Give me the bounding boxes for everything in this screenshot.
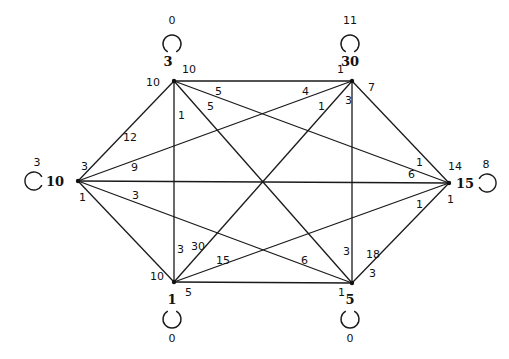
edge-weight-label: 30 (191, 240, 205, 253)
edge-weight-label: 3 (343, 245, 350, 258)
self-loop-weight-label: 0 (169, 14, 176, 27)
node-name-label: 10 (46, 174, 64, 189)
edge-weight-label: 1 (337, 63, 344, 76)
edge-weight-label: 1 (416, 156, 423, 169)
graph-edge-n30-n15 (352, 81, 449, 183)
graph-edge-n1-n5 (174, 282, 352, 283)
self-loop-3 (163, 35, 181, 52)
edge-weight-label: 3 (177, 243, 184, 256)
node-name-label: 15 (456, 176, 474, 191)
edge-weight-label: 1 (338, 286, 345, 299)
edge-weight-label: 1 (447, 193, 454, 206)
edge-weight-label: 18 (366, 248, 380, 261)
graph-node-5 (350, 281, 354, 285)
edge-weight-label: 6 (301, 254, 308, 267)
self-loop-5 (341, 311, 359, 328)
edge-weight-label: 3 (81, 160, 88, 173)
self-loop-weight-label: 8 (483, 158, 490, 171)
edge-weight-label: 14 (448, 160, 462, 173)
edge-weight-label: 9 (131, 161, 138, 174)
self-loop-weight-label: 11 (343, 14, 357, 27)
graph-node-10 (76, 179, 80, 183)
node-name-label: 3 (163, 54, 172, 69)
edge-weight-label: 3 (369, 267, 376, 280)
weighted-graph-diagram: 0113800 330101515 1010551141371239131146… (0, 0, 509, 359)
edge-weight-label: 10 (182, 63, 196, 76)
edge-weight-label: 4 (302, 85, 309, 98)
node-name-label: 5 (345, 292, 354, 307)
edge-weight-label: 3 (132, 189, 139, 202)
edge-weight-label: 12 (123, 131, 137, 144)
self-loop-1 (163, 311, 181, 328)
edge-weight-label: 1 (318, 100, 325, 113)
self-loop-10 (25, 172, 42, 190)
edge-weight-label: 1 (416, 198, 423, 211)
self-loop-weight-label: 0 (347, 332, 354, 345)
edges-layer (78, 81, 449, 283)
edge-weight-label: 7 (368, 81, 375, 94)
edge-weight-label: 10 (150, 270, 164, 283)
self-loop-15 (479, 174, 496, 192)
graph-node-1 (172, 280, 176, 284)
graph-node-30 (350, 79, 354, 83)
edge-weight-label: 10 (146, 76, 160, 89)
graph-node-3 (172, 79, 176, 83)
graph-node-15 (447, 181, 451, 185)
edge-weight-label: 5 (185, 286, 192, 299)
self-loop-30 (341, 35, 359, 52)
edge-weight-label: 3 (345, 94, 352, 107)
edge-weight-label: 1 (79, 191, 86, 204)
graph-edge-n10-n1 (78, 181, 174, 282)
edge-weight-label: 5 (207, 100, 214, 113)
self-loop-weight-label: 3 (34, 156, 41, 169)
node-name-label: 1 (167, 292, 176, 307)
edge-weight-label: 5 (215, 85, 222, 98)
self-loop-weight-label: 0 (169, 332, 176, 345)
edge-weight-label: 6 (408, 168, 415, 181)
edge-weight-label: 1 (178, 109, 185, 122)
edge-weight-label: 15 (216, 254, 230, 267)
graph-edge-n5-n15 (352, 183, 449, 283)
